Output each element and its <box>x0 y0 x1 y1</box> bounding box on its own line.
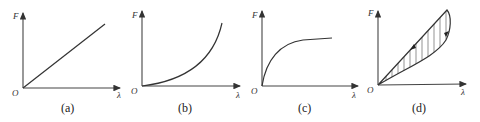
panel-a: F O λ (a) <box>12 11 121 115</box>
caption: (c) <box>298 101 311 115</box>
y-axis-label: F <box>131 10 138 20</box>
convex-curve <box>142 23 222 86</box>
origin-label: O <box>131 86 138 96</box>
x-axis-label: λ <box>351 90 356 100</box>
origin-label: O <box>251 86 258 96</box>
panel-d: F O λ (d) <box>367 6 466 115</box>
x-axis-label: λ <box>235 90 240 100</box>
origin-label: O <box>12 88 19 98</box>
x-axis-label: λ <box>116 90 121 100</box>
x-axis-label: λ <box>460 87 465 97</box>
caption: (b) <box>178 101 192 115</box>
caption: (d) <box>412 101 426 115</box>
panel-b: F O λ (b) <box>131 10 240 115</box>
y-axis-label: F <box>367 8 374 18</box>
saturating-curve <box>262 38 332 86</box>
y-axis-label: F <box>251 10 258 20</box>
x-axis <box>378 84 466 85</box>
panel-c: F O λ (c) <box>251 10 358 115</box>
linear-curve <box>23 24 105 88</box>
force-extension-figure: F O λ (a) F O λ (b) F O λ (c) <box>0 0 480 122</box>
y-axis-label: F <box>12 11 19 21</box>
origin-label: O <box>367 85 374 95</box>
caption: (a) <box>61 101 74 115</box>
